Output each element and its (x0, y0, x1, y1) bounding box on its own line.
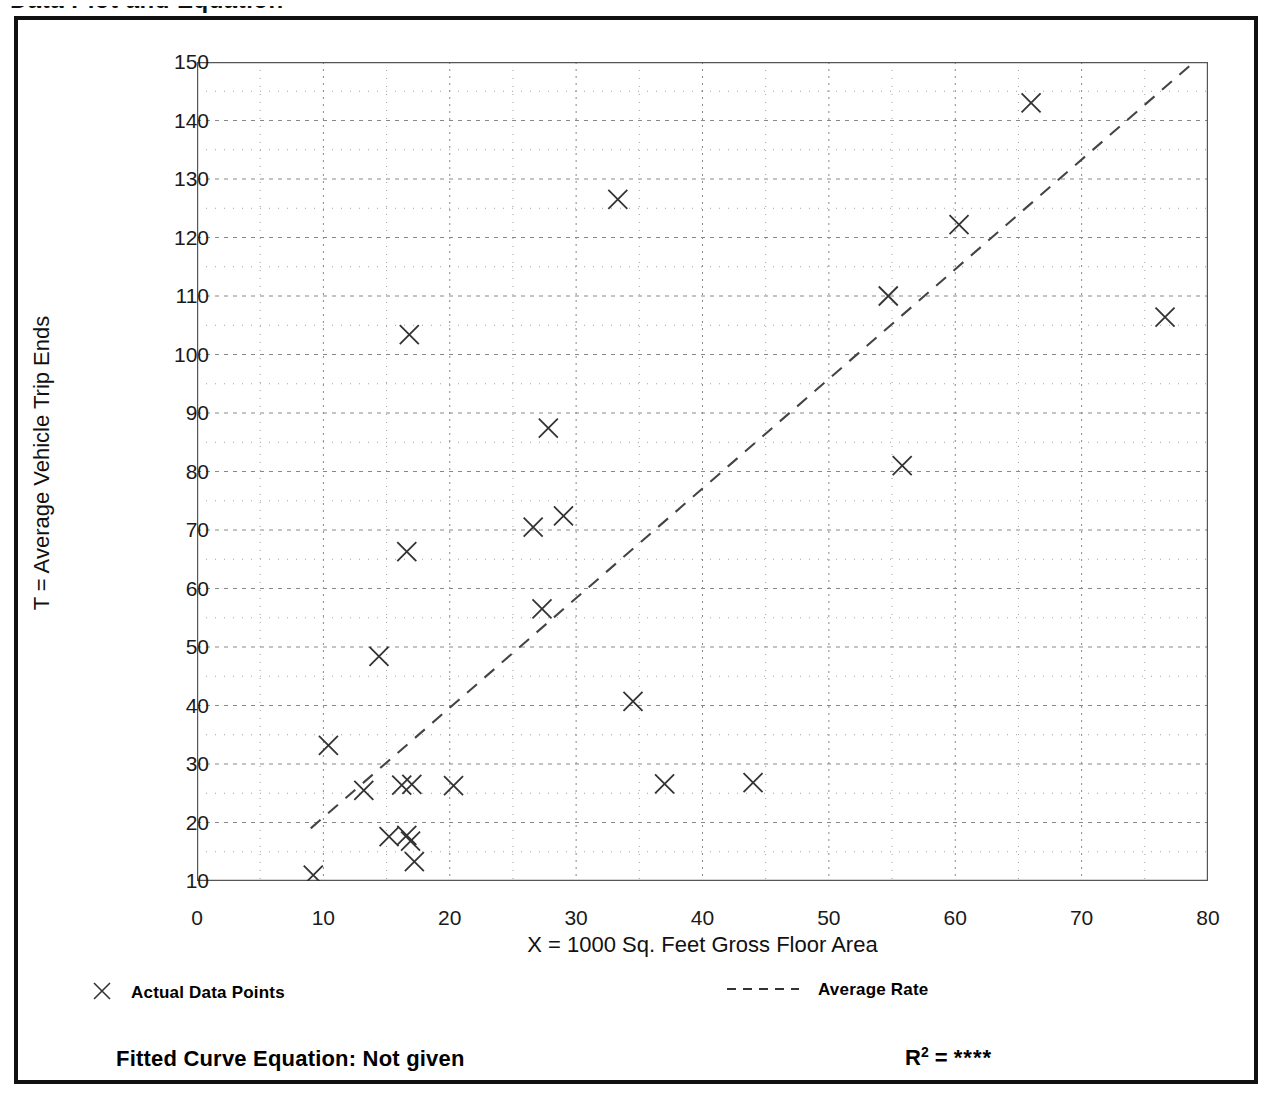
y-axis-tick-label: 110 (149, 285, 209, 306)
data-point-marker (623, 692, 642, 711)
fitted-curve-equation: Fitted Curve Equation: Not given (116, 1046, 465, 1072)
x-axis-tick-label: 30 (546, 907, 606, 928)
data-point-marker (319, 736, 338, 755)
data-point-marker (400, 325, 419, 344)
chart-page: Data Plot and Equation 10203040506070809… (0, 0, 1272, 1101)
data-point-marker (380, 827, 399, 846)
y-axis-tick-label: 40 (149, 695, 209, 716)
r-squared-equals: = (929, 1045, 954, 1070)
y-axis-tick-label: 80 (149, 461, 209, 482)
data-point-marker (744, 773, 763, 792)
plot-area-wrapper: 102030405060708090100110120130140150 010… (18, 20, 1262, 1088)
x-axis-tick-label: 60 (925, 907, 985, 928)
y-axis-tick-label: 90 (149, 402, 209, 423)
x-axis-tick-label: 0 (167, 907, 227, 928)
r-squared-prefix: R (905, 1045, 921, 1070)
data-point-marker (444, 776, 463, 795)
y-axis-title: T = Average Vehicle Trip Ends (29, 233, 55, 693)
x-axis-tick-label: 80 (1178, 907, 1238, 928)
r-squared-stars: **** (954, 1045, 992, 1070)
legend-actual-data-points-label: Actual Data Points (131, 983, 285, 1003)
data-point-markers (304, 93, 1175, 881)
x-axis-tick-label: 20 (420, 907, 480, 928)
data-point-marker (397, 826, 416, 845)
data-point-marker (533, 599, 552, 618)
x-marker-icon (91, 980, 113, 1006)
x-axis-tick-label: 50 (799, 907, 859, 928)
data-point-marker (1156, 308, 1175, 327)
y-axis-tick-label: 50 (149, 636, 209, 657)
legend-actual-data-points: Actual Data Points (91, 980, 285, 1006)
page-title-clipped: Data Plot and Equation (10, 0, 284, 14)
legend-average-rate-label: Average Rate (818, 980, 928, 1000)
data-point-marker (402, 775, 421, 794)
plot-area (197, 62, 1208, 881)
r-squared-exponent: 2 (921, 1044, 929, 1060)
dashed-line-icon (726, 981, 800, 999)
x-axis-title: X = 1000 Sq. Feet Gross Floor Area (197, 932, 1208, 958)
y-axis-tick-label: 10 (149, 870, 209, 891)
y-axis-tick-label: 100 (149, 344, 209, 365)
scatter-plot-svg (197, 62, 1208, 881)
y-axis-tick-label: 20 (149, 812, 209, 833)
data-point-marker (893, 456, 912, 475)
data-point-marker (397, 542, 416, 561)
x-axis-tick-label: 40 (673, 907, 733, 928)
data-point-marker (608, 190, 627, 209)
legend-average-rate: Average Rate (726, 980, 928, 1000)
data-point-marker (539, 419, 558, 438)
y-axis-tick-label: 70 (149, 519, 209, 540)
r-squared-value: R2 = **** (905, 1044, 992, 1071)
data-point-marker (655, 774, 674, 793)
x-axis-tick-label: 10 (293, 907, 353, 928)
y-axis-tick-label: 140 (149, 110, 209, 131)
y-axis-tick-label: 150 (149, 51, 209, 72)
y-axis-tick-label: 60 (149, 578, 209, 599)
chart-frame: 102030405060708090100110120130140150 010… (14, 16, 1258, 1084)
data-point-marker (950, 215, 969, 234)
y-axis-tick-label: 130 (149, 168, 209, 189)
data-point-marker (369, 647, 388, 666)
y-axis-tick-label: 30 (149, 753, 209, 774)
y-axis-tick-label: 120 (149, 227, 209, 248)
data-point-marker (405, 852, 424, 871)
data-point-marker (1022, 93, 1041, 112)
gridlines (197, 62, 1208, 881)
x-axis-tick-label: 70 (1052, 907, 1112, 928)
average-rate-trendline (311, 62, 1194, 828)
data-point-marker (554, 506, 573, 525)
data-point-marker (524, 518, 543, 537)
data-point-marker (392, 776, 411, 795)
data-point-marker (304, 866, 323, 881)
data-point-marker (401, 832, 420, 851)
